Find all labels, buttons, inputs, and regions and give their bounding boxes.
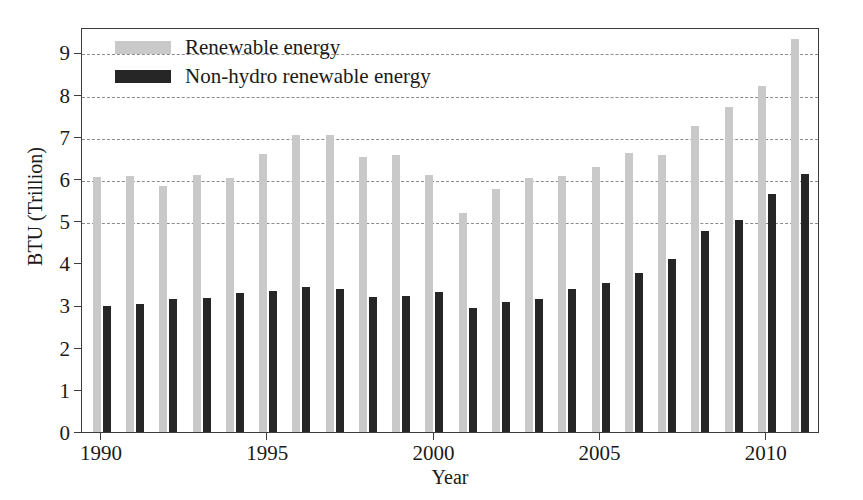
bar: [801, 174, 809, 432]
chart-legend: Renewable energyNon-hydro renewable ener…: [115, 36, 431, 87]
bar: [791, 39, 799, 432]
y-tick-label: 6: [60, 166, 71, 194]
y-tick-label: 1: [60, 377, 71, 405]
bar: [103, 306, 111, 432]
plot-area: [81, 28, 819, 433]
legend-swatch: [115, 70, 171, 83]
y-tick-label: 5: [60, 208, 71, 236]
y-axis: 0123456789: [0, 28, 81, 433]
bar: [701, 231, 709, 432]
bar: [525, 178, 533, 432]
bar: [269, 291, 277, 432]
x-tick-mark: [433, 433, 434, 440]
legend-swatch: [115, 41, 171, 54]
y-tick-mark: [74, 53, 81, 54]
y-tick-mark: [74, 263, 81, 264]
y-tick-mark: [74, 137, 81, 138]
x-tick-mark: [100, 433, 101, 440]
bar: [658, 155, 666, 432]
y-tick-label: 8: [60, 82, 71, 110]
bar: [302, 287, 310, 432]
bar: [236, 293, 244, 432]
x-tick-label: 2000: [393, 441, 473, 466]
bar: [203, 298, 211, 432]
legend-label: Non-hydro renewable energy: [185, 65, 431, 87]
x-tick-label: 2010: [726, 441, 806, 466]
bar: [668, 259, 676, 432]
x-tick-mark: [765, 433, 766, 440]
y-tick-label: 7: [60, 124, 71, 152]
bars-layer: [82, 29, 818, 432]
bar: [336, 289, 344, 432]
legend-item: Non-hydro renewable energy: [115, 65, 431, 87]
x-tick-label: 2005: [560, 441, 640, 466]
bar: [459, 213, 467, 432]
y-tick-mark: [74, 390, 81, 391]
y-tick-label: 2: [60, 335, 71, 363]
y-tick-mark: [74, 221, 81, 222]
bar: [735, 220, 743, 432]
bar: [758, 86, 766, 432]
bar: [226, 178, 234, 432]
bar: [725, 107, 733, 432]
y-tick-label: 4: [60, 250, 71, 278]
y-tick-label: 9: [60, 39, 71, 67]
legend-label: Renewable energy: [185, 36, 340, 58]
x-axis-title: Year: [81, 466, 819, 489]
x-tick-mark: [599, 433, 600, 440]
bar: [93, 177, 101, 432]
bar: [492, 189, 500, 432]
bar: [193, 175, 201, 432]
x-tick-label: 1995: [227, 441, 307, 466]
bar-chart: BTU (Trillion) 0123456789 19901995200020…: [0, 0, 863, 500]
bar: [359, 157, 367, 432]
bar: [259, 154, 267, 432]
x-tick-mark: [266, 433, 267, 440]
y-tick-mark: [74, 306, 81, 307]
bar: [326, 135, 334, 432]
bar: [602, 283, 610, 432]
bar: [136, 304, 144, 432]
legend-item: Renewable energy: [115, 36, 431, 58]
y-tick-label: 3: [60, 292, 71, 320]
bar: [469, 308, 477, 432]
y-tick-mark: [74, 179, 81, 180]
bar: [691, 126, 699, 432]
y-tick-mark: [74, 95, 81, 96]
bar: [169, 299, 177, 432]
x-tick-label: 1990: [61, 441, 141, 466]
bar: [435, 292, 443, 432]
bar: [635, 273, 643, 432]
bar: [402, 296, 410, 432]
bar: [126, 176, 134, 432]
y-tick-mark: [74, 348, 81, 349]
bar: [568, 289, 576, 432]
bar: [558, 176, 566, 433]
bar: [502, 302, 510, 432]
bar: [535, 299, 543, 432]
bar: [369, 297, 377, 432]
bar: [392, 155, 400, 432]
bar: [292, 135, 300, 432]
bar: [425, 175, 433, 432]
bar: [159, 186, 167, 432]
bar: [592, 167, 600, 432]
y-tick-mark: [74, 432, 81, 433]
bar: [768, 194, 776, 432]
bar: [625, 153, 633, 432]
